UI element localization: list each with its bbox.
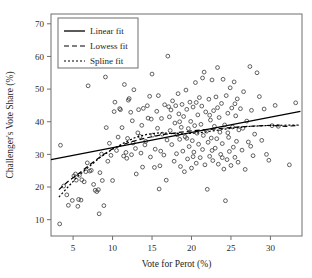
data-point xyxy=(267,158,271,162)
data-point xyxy=(159,149,163,153)
data-point xyxy=(189,120,193,124)
data-point xyxy=(227,136,231,140)
data-point xyxy=(273,104,277,108)
data-point xyxy=(215,137,219,141)
data-point xyxy=(235,97,239,101)
data-point xyxy=(200,104,204,108)
data-point xyxy=(174,104,178,108)
data-point xyxy=(226,131,230,135)
data-point xyxy=(165,138,169,142)
data-point xyxy=(253,132,257,136)
data-point xyxy=(210,149,214,153)
data-point xyxy=(199,122,203,126)
data-point xyxy=(158,164,162,168)
data-point xyxy=(211,159,215,163)
data-point xyxy=(201,148,205,152)
legend-label: Spline fit xyxy=(90,56,124,66)
data-point xyxy=(205,187,209,191)
y-tick-label: 20 xyxy=(35,182,45,192)
data-point xyxy=(191,105,195,109)
data-point xyxy=(197,142,201,146)
data-point xyxy=(102,204,106,208)
data-point xyxy=(227,150,231,154)
data-point xyxy=(218,130,222,134)
data-point xyxy=(178,137,182,141)
data-point xyxy=(220,142,224,146)
data-point xyxy=(186,127,190,131)
data-point xyxy=(66,203,70,207)
data-point xyxy=(130,119,134,123)
x-tick-label: 20 xyxy=(187,243,197,253)
data-point xyxy=(239,107,243,111)
data-point xyxy=(125,156,129,160)
scatter-plot: 51015202530Vote for Perot (%)10203040506… xyxy=(0,0,312,278)
data-point xyxy=(185,107,189,111)
data-point xyxy=(222,167,226,171)
data-point xyxy=(209,136,213,140)
data-point xyxy=(255,71,259,75)
data-point xyxy=(262,107,266,111)
data-point xyxy=(180,103,184,107)
data-point xyxy=(177,112,181,116)
data-point xyxy=(187,145,191,149)
data-point xyxy=(249,144,253,148)
data-point xyxy=(221,77,225,81)
data-point xyxy=(190,139,194,143)
data-points xyxy=(58,54,298,226)
data-point xyxy=(217,116,221,120)
data-point xyxy=(141,165,145,169)
data-point xyxy=(171,99,175,103)
y-axis-title: Challenger's Vote Share (%) xyxy=(5,71,16,178)
data-point xyxy=(216,106,220,110)
data-point xyxy=(231,145,235,149)
data-point xyxy=(240,148,244,152)
data-point xyxy=(235,139,239,143)
y-tick-label: 70 xyxy=(35,19,45,29)
data-point xyxy=(98,171,102,175)
data-point xyxy=(233,102,237,106)
data-point xyxy=(201,76,205,80)
data-point xyxy=(216,66,220,70)
data-point xyxy=(175,152,179,156)
data-point xyxy=(233,155,237,159)
data-point xyxy=(111,179,115,183)
data-point xyxy=(243,168,247,172)
data-point xyxy=(212,109,216,113)
data-point xyxy=(92,183,96,187)
x-tick-label: 15 xyxy=(148,243,158,253)
data-point xyxy=(257,95,261,99)
data-point xyxy=(155,109,159,113)
data-point xyxy=(76,204,80,208)
data-point xyxy=(162,153,166,157)
data-point xyxy=(216,162,220,166)
data-point xyxy=(126,136,130,140)
data-point xyxy=(208,113,212,117)
data-point xyxy=(153,166,157,170)
data-point xyxy=(198,156,202,160)
data-point xyxy=(149,155,153,159)
data-point xyxy=(202,70,206,74)
data-point xyxy=(65,193,69,197)
data-point xyxy=(85,161,89,165)
data-point xyxy=(234,114,238,118)
data-point xyxy=(169,108,173,112)
data-point xyxy=(251,154,255,158)
data-point xyxy=(166,54,170,58)
data-point xyxy=(197,96,201,100)
data-point xyxy=(156,126,160,130)
data-point xyxy=(186,157,190,161)
data-point xyxy=(140,123,144,127)
data-point xyxy=(168,115,172,119)
data-point xyxy=(208,154,212,158)
data-point xyxy=(130,153,134,157)
data-point xyxy=(113,100,117,104)
data-point xyxy=(179,165,183,169)
data-point xyxy=(237,128,241,132)
data-point xyxy=(192,150,196,154)
data-point xyxy=(143,143,147,147)
x-axis: 51015202530 xyxy=(71,236,276,253)
data-point xyxy=(108,141,112,145)
data-point xyxy=(184,88,188,92)
data-point xyxy=(104,126,108,130)
data-point xyxy=(248,65,252,69)
